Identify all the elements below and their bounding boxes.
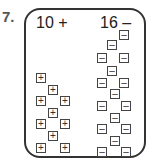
- negative-tile: –: [107, 66, 117, 76]
- negative-tile: –: [110, 89, 120, 99]
- positive-tile: +: [36, 143, 46, 153]
- negative-tile: –: [119, 53, 129, 63]
- negative-tile: –: [107, 40, 117, 50]
- negative-tile: –: [121, 124, 131, 134]
- negative-tile: –: [119, 78, 129, 88]
- positive-tile: +: [48, 85, 58, 95]
- negative-tile: –: [97, 53, 107, 63]
- negative-tile: –: [121, 147, 131, 157]
- problem-number: 7.: [2, 8, 15, 25]
- negative-tile: –: [97, 124, 107, 134]
- positive-tile: +: [60, 96, 70, 106]
- positive-tile: +: [36, 119, 46, 129]
- positive-tile: +: [60, 143, 70, 153]
- negative-tile: –: [97, 101, 107, 111]
- negative-tile: –: [97, 78, 107, 88]
- positive-tile: +: [36, 96, 46, 106]
- negative-tile: –: [121, 101, 131, 111]
- negative-tile: –: [110, 136, 120, 146]
- positive-tile: +: [48, 131, 58, 141]
- negative-tile: –: [110, 113, 120, 123]
- positive-tile: +: [60, 119, 70, 129]
- positive-label: 10 +: [36, 14, 68, 32]
- negative-tile: –: [119, 30, 129, 40]
- positive-tile: +: [36, 73, 46, 83]
- positive-tile: +: [48, 108, 58, 118]
- negative-tile: –: [97, 147, 107, 157]
